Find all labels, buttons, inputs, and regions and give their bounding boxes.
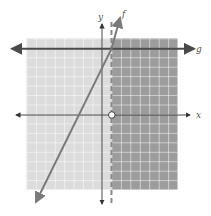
g-label: g (196, 44, 202, 54)
open-circle (109, 112, 116, 119)
x-axis-label: x (196, 110, 201, 120)
f-label: f (121, 9, 127, 19)
coordinate-graph: y f g x (0, 0, 211, 216)
y-axis-label: y (97, 12, 104, 22)
